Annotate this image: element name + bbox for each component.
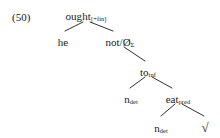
- tree-node-not: not/ØΣ: [106, 37, 135, 49]
- tree-edge-ought-he: [65, 22, 83, 31]
- node-subscript-eat: pred: [179, 98, 191, 105]
- tree-node-n-det-lower: ndet: [154, 123, 168, 135]
- example-number: (50): [12, 12, 30, 23]
- tree-node-n-det-upper: ndet: [124, 94, 138, 106]
- linguistic-tree-figure: (50) ought[+fin]henot/ØΣtoinfndeteatpred…: [0, 0, 220, 138]
- tree-node-to: toinf: [140, 67, 156, 79]
- node-subscript-ought: [+fin]: [91, 15, 107, 22]
- tree-edge-ought-not: [90, 22, 113, 31]
- tree-node-ought: ought[+fin]: [65, 11, 106, 23]
- node-label-to: to: [140, 66, 149, 78]
- tree-edges: [0, 0, 220, 138]
- node-subscript-not: Σ: [131, 41, 135, 48]
- node-label-ought: ought: [65, 10, 91, 22]
- tree-node-he: he: [58, 37, 68, 48]
- node-subscript-n-det-lower: det: [160, 127, 168, 134]
- tree-edge-eat-ndet: [161, 104, 175, 116]
- node-subscript-to: inf: [149, 71, 156, 78]
- node-label-he: he: [58, 36, 68, 48]
- node-label-not: not/Ø: [106, 36, 131, 48]
- tree-node-eat: eatpred: [166, 94, 191, 106]
- tree-node-radical: √: [201, 121, 208, 134]
- tree-edge-not-to: [124, 47, 145, 61]
- node-subscript-n-det-upper: det: [130, 98, 138, 105]
- tree-edge-eat-radical: [182, 104, 204, 116]
- node-label-eat: eat: [166, 93, 179, 105]
- node-label-radical: √: [201, 120, 208, 135]
